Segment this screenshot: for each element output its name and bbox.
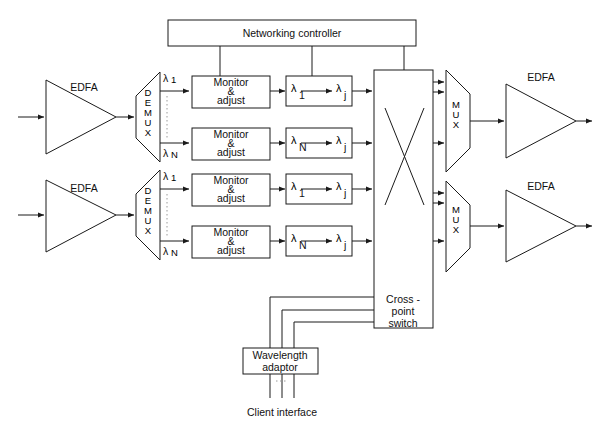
client-interface-label: Client interface bbox=[247, 406, 317, 418]
conv-target-symbol: λ bbox=[336, 180, 342, 192]
edfa-output-row2 bbox=[506, 190, 576, 262]
demux-label-row1: D E M U X bbox=[144, 87, 152, 138]
wdm-node-diagram: Networking controller EDFA EDFA EDFA EDF… bbox=[0, 0, 603, 435]
adaptor-line2: adaptor bbox=[262, 361, 298, 373]
conv-source-subscript: N bbox=[299, 141, 307, 153]
lambda-symbol: λ bbox=[163, 170, 169, 182]
monitor-line3: adjust bbox=[217, 94, 245, 106]
conv-target-symbol: λ bbox=[336, 232, 342, 244]
conv-source-symbol: λ bbox=[291, 180, 297, 192]
conv-target-symbol: λ bbox=[336, 134, 342, 146]
networking-controller-label: Networking controller bbox=[243, 27, 342, 39]
lambda-subscript: N bbox=[171, 149, 178, 160]
channel-label-r2-first: λ 1 bbox=[163, 170, 176, 183]
demux-letter-x: X bbox=[145, 127, 152, 138]
channel-label-r1-last: λ N bbox=[163, 147, 178, 160]
lambda-subscript: 1 bbox=[171, 172, 176, 183]
adaptor-line1: Wavelength bbox=[252, 349, 307, 361]
edfa-label-input-row2: EDFA bbox=[70, 182, 97, 194]
mux-label-row2: M U X bbox=[452, 204, 460, 235]
lambda-symbol: λ bbox=[163, 147, 169, 159]
diagram-canvas: Networking controller EDFA EDFA EDFA EDF… bbox=[0, 0, 603, 435]
edfa-output-row1 bbox=[506, 84, 576, 158]
conv-source-symbol: λ bbox=[291, 82, 297, 94]
lambda-symbol: λ bbox=[163, 245, 169, 257]
switch-line1: Cross - bbox=[386, 293, 420, 305]
monitor-line3: adjust bbox=[217, 244, 245, 256]
channel-label-r2-last: λ N bbox=[163, 245, 178, 258]
conv-source-symbol: λ bbox=[291, 232, 297, 244]
mux-label-row1: M U X bbox=[452, 99, 460, 130]
edfa-label-input-row1: EDFA bbox=[70, 81, 97, 93]
demux-letter-x: X bbox=[145, 225, 152, 236]
conv-target-subscript: j bbox=[343, 89, 346, 101]
lambda-subscript: 1 bbox=[171, 74, 176, 85]
switch-line2: point bbox=[392, 305, 415, 317]
conv-source-subscript: N bbox=[299, 239, 307, 251]
switch-line3: switch bbox=[388, 317, 417, 329]
conv-target-symbol: λ bbox=[336, 82, 342, 94]
conv-target-subscript: j bbox=[343, 187, 346, 199]
lambda-symbol: λ bbox=[163, 72, 169, 84]
edfa-label-output-row2: EDFA bbox=[527, 180, 554, 192]
conv-target-subscript: j bbox=[343, 141, 346, 153]
lambda-subscript: N bbox=[171, 247, 178, 258]
channel-label-r1-first: λ 1 bbox=[163, 72, 176, 85]
conv-source-subscript: 1 bbox=[299, 89, 305, 101]
conv-source-subscript: 1 bbox=[299, 187, 305, 199]
demux-label-row2: D E M U X bbox=[144, 185, 152, 236]
edfa-label-output-row1: EDFA bbox=[527, 71, 554, 83]
mux-letter-x: X bbox=[453, 224, 460, 235]
monitor-line3: adjust bbox=[217, 192, 245, 204]
mux-letter-x: X bbox=[453, 119, 460, 130]
monitor-line3: adjust bbox=[217, 146, 245, 158]
conv-target-subscript: j bbox=[343, 239, 346, 251]
conv-source-symbol: λ bbox=[291, 134, 297, 146]
